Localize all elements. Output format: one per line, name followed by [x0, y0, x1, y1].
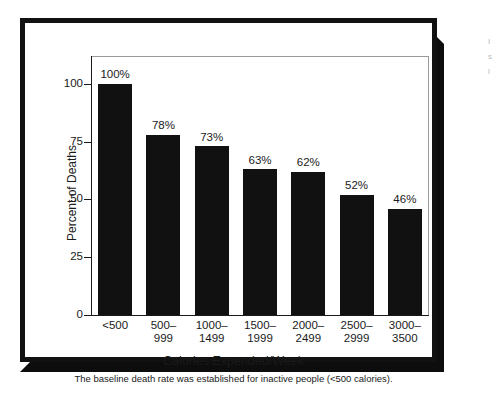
bar-slot: 73%: [188, 56, 236, 315]
y-axis-title: Percent of Deaths: [65, 113, 79, 273]
y-axis-tick-label: 100: [43, 78, 83, 90]
bar-slot: 100%: [91, 56, 139, 315]
y-axis-tick: [84, 315, 92, 316]
y-axis-tick-label: 0: [43, 309, 83, 321]
x-axis-category-label: 3000– 3500: [373, 319, 437, 345]
bar-value-label: 46%: [375, 194, 435, 206]
x-axis-title: Calories Expended/Week: [25, 354, 442, 368]
bar-value-label: 78%: [133, 120, 193, 132]
figure-caption: The baseline death rate was established …: [25, 373, 442, 384]
bar-slot: 63%: [236, 56, 284, 315]
bar-value-label: 62%: [278, 157, 338, 169]
bar: [146, 135, 180, 315]
bar-slot: 46%: [381, 56, 429, 315]
bar-slot: 78%: [139, 56, 187, 315]
bar: [98, 84, 132, 315]
bar: [340, 195, 374, 315]
figure-root: 0255075100 Percent of Deaths 100%78%73%6…: [0, 0, 499, 396]
figure-border-box: 0255075100 Percent of Deaths 100%78%73%6…: [20, 18, 437, 362]
bar-value-label: 52%: [327, 180, 387, 192]
bars-layer: 100%78%73%63%62%52%46%: [91, 56, 429, 315]
bar: [243, 169, 277, 315]
page-margin-text: Isl: [488, 34, 499, 79]
bar: [388, 209, 422, 315]
x-axis-spine: [91, 315, 429, 316]
bar-slot: 62%: [284, 56, 332, 315]
x-axis-category-labels: <500500– 9991000– 14991500– 19992000– 24…: [91, 319, 429, 359]
bar: [195, 146, 229, 315]
bar: [291, 172, 325, 315]
bar-slot: 52%: [332, 56, 380, 315]
bar-value-label: 100%: [85, 69, 145, 81]
bar-value-label: 73%: [182, 132, 242, 144]
